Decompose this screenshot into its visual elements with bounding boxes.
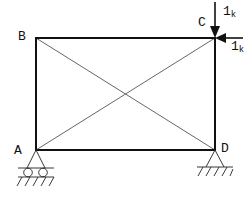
vertical-load-unit: k (231, 10, 236, 20)
roller-support-icon (17, 150, 54, 186)
horizontal-load-value: 1 (231, 39, 239, 54)
vertical-load-arrow-icon (210, 2, 220, 38)
vertical-load-label: 1k (223, 5, 236, 20)
horizontal-load-unit: k (239, 45, 244, 55)
vertical-load-value: 1 (223, 4, 231, 19)
node-label-b: B (18, 30, 26, 43)
node-label-d: D (221, 142, 229, 155)
node-label-c: C (198, 16, 206, 29)
horizontal-load-label: 1k (231, 40, 244, 55)
truss-diagram: B C A D 1k 1k (0, 0, 249, 199)
diagram-graphics (0, 0, 249, 199)
node-label-a: A (14, 144, 22, 157)
